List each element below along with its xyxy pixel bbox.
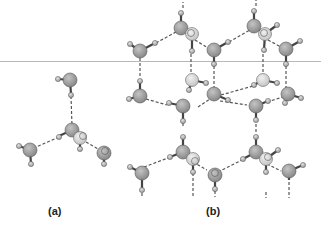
ice-structure-diagram	[0, 0, 321, 233]
hydrogen-bonds-a	[34, 96, 100, 150]
panel-b-label: (b)	[206, 205, 220, 217]
panel-a	[16, 73, 111, 167]
panel-b	[126, 0, 305, 198]
panel-a-label: (a)	[48, 205, 61, 217]
oxygen-atoms-light-b	[186, 28, 273, 166]
